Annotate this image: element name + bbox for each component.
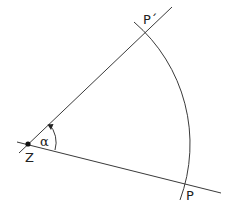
label-p-prime: P´ [143, 12, 157, 27]
label-z: Z [25, 150, 34, 165]
label-alpha: α [40, 134, 49, 149]
label-p: P [186, 188, 194, 203]
rotation-diagram: Z α P´ P [0, 0, 234, 211]
ray-z-p-prime [19, 7, 172, 153]
center-point-z [25, 141, 30, 146]
